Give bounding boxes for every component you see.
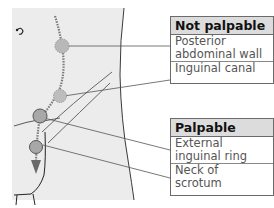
label-inguinal-canal: Inguinal canal [171, 61, 273, 75]
not-palpable-title: Not palpable [171, 17, 273, 35]
body-outline [12, 8, 134, 205]
marker-inguinal-canal [54, 90, 67, 103]
label-neck-of-scrotum: Neck of scrotum [171, 163, 273, 190]
label-posterior-abdominal-wall: Posterior abdominal wall [171, 35, 273, 61]
palpable-box: Palpable External inguinal ring Neck of … [170, 118, 274, 196]
marker-posterior-abdominal-wall [55, 39, 69, 53]
palpable-title: Palpable [171, 119, 273, 137]
label-external-inguinal-ring: External inguinal ring [171, 137, 273, 163]
marker-external-inguinal-ring [33, 109, 47, 123]
not-palpable-box: Not palpable Posterior abdominal wall In… [170, 16, 274, 84]
marker-neck-of-scrotum [30, 141, 43, 154]
